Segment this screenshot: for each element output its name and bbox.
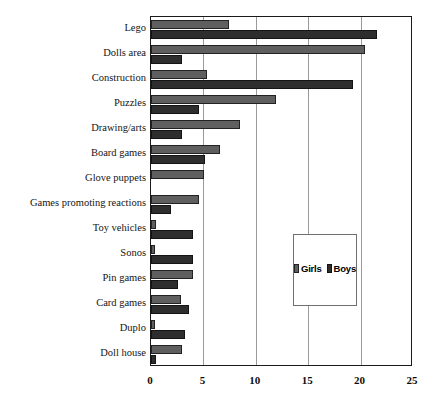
category-label: Construction (0, 72, 146, 84)
category-label: Toy vehicles (0, 222, 146, 234)
bar-girls (151, 270, 193, 279)
x-tick-label: 25 (397, 374, 427, 386)
bar-girls (151, 345, 182, 354)
bar-girls (151, 70, 207, 79)
legend-swatch-boys-icon (327, 264, 332, 273)
bar-row (151, 292, 411, 317)
bar-row (151, 142, 411, 167)
bar-row (151, 192, 411, 217)
legend-label: Girls (301, 263, 322, 274)
category-label: Lego (0, 22, 146, 34)
bar-boys (151, 30, 377, 39)
bar-row (151, 267, 411, 292)
legend-item-girls: Girls (294, 263, 322, 274)
bar-row (151, 342, 411, 367)
category-label: Drawing/arts (0, 122, 146, 134)
x-tick-label: 15 (292, 374, 322, 386)
category-label: Glove puppets (0, 172, 146, 184)
bar-girls (151, 195, 199, 204)
category-label: Pin games (0, 272, 146, 284)
bar-row (151, 167, 411, 192)
legend-item-boys: Boys (327, 263, 356, 274)
bar-row (151, 17, 411, 42)
bar-boys (151, 230, 193, 239)
bar-girls (151, 295, 181, 304)
category-label: Duplo (0, 322, 146, 334)
bar-boys (151, 330, 185, 339)
category-label: Card games (0, 297, 146, 309)
category-label: Doll house (0, 347, 146, 359)
legend-label: Boys (334, 263, 356, 274)
bar-girls (151, 245, 155, 254)
category-label: Board games (0, 147, 146, 159)
x-tick-label: 10 (240, 374, 270, 386)
bar-girls (151, 20, 229, 29)
bar-row (151, 92, 411, 117)
bar-boys (151, 155, 205, 164)
x-tick-label: 5 (187, 374, 217, 386)
plot-area (150, 16, 412, 366)
x-tick-label: 20 (345, 374, 375, 386)
bar-row (151, 317, 411, 342)
bar-boys (151, 105, 199, 114)
bar-boys (151, 80, 353, 89)
legend-swatch-girls-icon (294, 264, 299, 273)
bar-girls (151, 145, 220, 154)
bar-rows (151, 17, 411, 365)
category-label: Puzzles (0, 97, 146, 109)
bar-boys (151, 305, 189, 314)
category-label: Games promoting reactions (0, 197, 146, 209)
category-axis-labels: LegoDolls areaConstructionPuzzlesDrawing… (0, 16, 146, 366)
bar-boys (151, 280, 178, 289)
category-label: Sonos (0, 247, 146, 259)
bar-boys (151, 55, 182, 64)
bar-girls (151, 45, 365, 54)
bar-girls (151, 320, 155, 329)
bar-girls (151, 120, 240, 129)
category-label: Dolls area (0, 47, 146, 59)
bar-girls (151, 170, 204, 179)
bar-row (151, 242, 411, 267)
bar-row (151, 67, 411, 92)
bar-boys (151, 255, 193, 264)
bar-girls (151, 95, 276, 104)
bar-girls (151, 220, 156, 229)
bar-chart: LegoDolls areaConstructionPuzzlesDrawing… (0, 0, 430, 406)
bar-boys (151, 130, 182, 139)
legend-items: GirlsBoys (294, 263, 356, 274)
bar-boys (151, 205, 171, 214)
legend: GirlsBoys (293, 234, 357, 306)
bar-row (151, 42, 411, 67)
bar-row (151, 217, 411, 242)
x-tick-label: 0 (135, 374, 165, 386)
value-axis: 0510152025 (0, 366, 430, 390)
bar-row (151, 117, 411, 142)
bar-boys (151, 355, 156, 364)
